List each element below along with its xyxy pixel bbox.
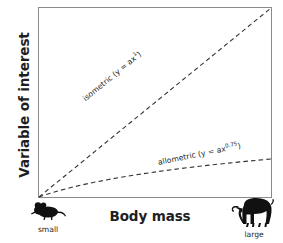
small-size-label: small: [26, 225, 70, 234]
large-size-label: large: [232, 230, 276, 239]
isometric-curve: [39, 8, 271, 197]
x-axis-title: Body mass: [95, 208, 205, 224]
mouse-icon: [30, 200, 70, 222]
elephant-icon: [229, 194, 276, 230]
allometric-curve: [39, 159, 271, 197]
y-axis-title: Variable of interest: [14, 10, 34, 200]
allometric-scaling-figure: Variable of interest isometric (y = ax1)…: [0, 0, 283, 243]
plot-curves: [38, 7, 272, 198]
